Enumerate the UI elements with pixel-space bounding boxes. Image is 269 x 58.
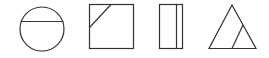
square-with-corner-cut bbox=[90, 5, 134, 49]
triangle-with-inner-line bbox=[209, 5, 256, 49]
rectangle-outline bbox=[160, 5, 183, 49]
triangle-inner-line bbox=[232, 25, 243, 49]
shapes-svg bbox=[0, 0, 269, 58]
rectangle-with-vertical-divider bbox=[160, 5, 183, 49]
circle-outline bbox=[20, 7, 64, 51]
square-outline bbox=[90, 5, 134, 49]
circle-with-chord bbox=[20, 7, 64, 51]
shapes-figure bbox=[0, 0, 269, 58]
triangle-outline bbox=[209, 5, 256, 49]
square-diagonal-line bbox=[90, 5, 112, 28]
